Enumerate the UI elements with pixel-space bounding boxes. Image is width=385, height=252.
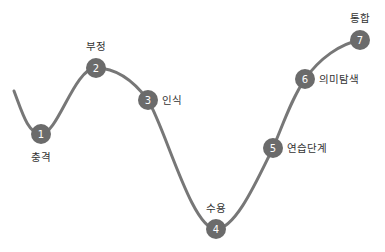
stage-5: 5 연습단계 [263,138,327,158]
stage-1-label: 충격 [31,151,51,163]
stage-4-label: 수용 [206,202,226,214]
stage-3-number: 3 [145,95,151,106]
stage-3-label: 인식 [162,94,182,106]
stage-5-label: 연습단계 [287,142,327,154]
stage-6-label: 의미탐색 [319,73,359,85]
stage-2: 2 부정 [86,40,106,78]
stage-5-number: 5 [270,143,276,154]
stage-7-number: 7 [357,35,363,46]
change-curve-diagram: 1 충격 2 부정 3 인식 4 수용 5 연습단계 6 의미탐색 7 통합 [0,0,385,252]
stage-7: 7 통합 [350,12,370,50]
stage-7-label: 통합 [350,12,370,24]
stage-2-number: 2 [93,63,99,74]
stage-4-number: 4 [213,224,219,235]
stage-1-number: 1 [38,129,44,140]
stage-4: 4 수용 [206,202,226,239]
stage-2-label: 부정 [86,40,106,52]
stage-3: 3 인식 [138,90,182,110]
stage-6-number: 6 [302,74,308,85]
stage-1: 1 충격 [31,124,51,163]
change-curve-line [14,40,360,229]
stage-6: 6 의미탐색 [295,69,359,89]
